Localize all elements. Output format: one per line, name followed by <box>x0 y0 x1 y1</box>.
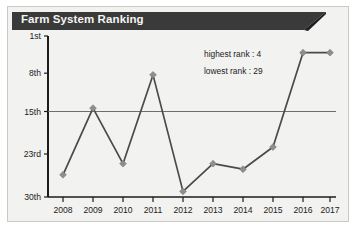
y-tick-label: 23rd <box>24 149 41 159</box>
x-tick-label: 2012 <box>173 205 192 215</box>
data-point-marker <box>60 171 67 178</box>
chart-card: Farm System Ranking 1st 8th 15th <box>7 6 349 222</box>
x-tick-label: 2016 <box>293 205 312 215</box>
line-chart-svg: 1st 8th 15th 23rd 30th 200 <box>8 7 350 223</box>
x-tick-label: 2014 <box>233 205 252 215</box>
y-tick-label: 15th <box>24 107 41 117</box>
data-point-marker <box>120 160 127 167</box>
x-tick-label: 2015 <box>263 205 282 215</box>
series-line <box>63 53 330 192</box>
y-axis-tick-labels: 1st 8th 15th 23rd 30th <box>24 31 42 202</box>
y-tick-label: 1st <box>30 31 42 41</box>
annotation-lowest-rank: lowest rank : 29 <box>204 66 263 76</box>
x-tick-label: 2008 <box>53 205 72 215</box>
data-point-marker <box>300 49 307 56</box>
x-tick-label: 2010 <box>113 205 132 215</box>
x-axis-tick-labels: 2008 2009 2010 2011 2012 2013 2014 2015 … <box>53 205 339 215</box>
data-point-marker <box>327 49 334 56</box>
x-tick-label: 2013 <box>203 205 222 215</box>
x-tick-label: 2017 <box>320 205 339 215</box>
plot-area: 1st 8th 15th 23rd 30th 200 <box>8 7 350 223</box>
x-tick-label: 2009 <box>83 205 102 215</box>
data-point-marker <box>90 105 97 112</box>
y-tick-label: 8th <box>29 68 41 78</box>
annotation-highest-rank: highest rank : 4 <box>204 49 262 59</box>
y-tick-label: 30th <box>24 192 41 202</box>
x-tick-label: 2011 <box>144 205 163 215</box>
data-point-marker <box>150 71 157 78</box>
